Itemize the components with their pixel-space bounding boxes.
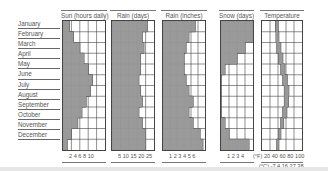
rain-days-plot — [111, 20, 155, 151]
rain-days-panel: Rain (days) — [110, 10, 156, 19]
bottom-divider — [0, 167, 328, 171]
sun-title: Sun (hours daily) — [61, 10, 107, 19]
sun-panel: Sun (hours daily) — [61, 10, 107, 19]
rain-days-title: Rain (days) — [110, 10, 156, 19]
month-label: April — [18, 49, 60, 59]
snow-plot — [220, 20, 254, 151]
sun-axis-line — [62, 162, 106, 163]
month-label: February — [18, 29, 60, 39]
month-label: December — [18, 130, 60, 140]
snow-axis-line — [220, 162, 254, 163]
rain-inches-panel: Rain (inches) — [161, 10, 207, 19]
month-label: March — [18, 39, 60, 49]
month-label: September — [18, 100, 60, 110]
month-label: October — [18, 110, 60, 120]
snow-panel: Snow (days) — [219, 10, 254, 19]
rain-inches-axis-line — [162, 162, 206, 163]
sun-ticks: 2 4 6 8 10 — [69, 153, 94, 159]
month-label: November — [18, 120, 60, 130]
sun-plot — [62, 20, 106, 151]
month-label: May — [18, 59, 60, 69]
temperature-title: Temperature — [260, 10, 304, 19]
month-label: August — [18, 90, 60, 100]
month-label: June — [18, 69, 60, 79]
month-label: January — [18, 19, 60, 29]
snow-title: Snow (days) — [219, 10, 254, 19]
rain-days-axis-line — [111, 162, 155, 163]
temperature-f-ticks: (°F) 20 40 60 80 100 — [253, 153, 304, 159]
month-labels: January February March April May June Ju… — [18, 19, 60, 140]
rain-inches-title: Rain (inches) — [161, 10, 207, 19]
rain-inches-ticks: 1 2 3 4 5 6 — [169, 153, 195, 159]
temperature-panel: Temperature — [260, 10, 304, 19]
month-label: July — [18, 80, 60, 90]
rain-inches-plot — [162, 20, 206, 151]
rain-days-ticks: 5 10 15 20 25 — [118, 153, 152, 159]
temperature-plot — [261, 20, 303, 151]
snow-ticks: 1 2 3 4 — [227, 153, 244, 159]
